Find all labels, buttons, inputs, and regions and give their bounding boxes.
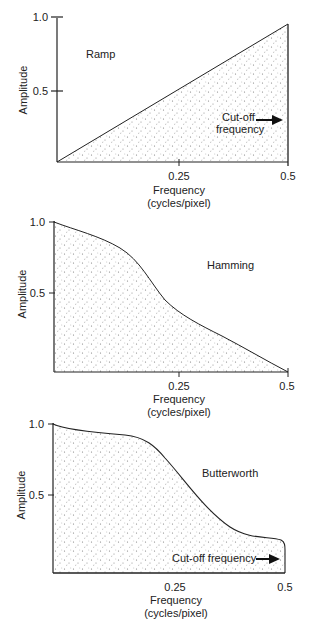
x-tick-label-0.5: 0.5 (280, 170, 295, 182)
y-axis-label: Amplitude (16, 270, 28, 319)
cutoff-annotation-line1: Cut-off (222, 111, 256, 123)
x-axis-label: Frequency (153, 393, 205, 405)
x-tick-label-0.25: 0.25 (168, 170, 189, 182)
ramp-chart: 1.0 0.5 0.25 0.5 Frequency (cycles/pixel… (17, 11, 296, 209)
chart-title-butterworth: Butterworth (202, 467, 258, 479)
hamming-chart: 1.0 0.5 0.25 0.5 Frequency (cycles/pixel… (16, 216, 295, 418)
cutoff-annotation: Cut-off frequency (172, 552, 257, 564)
cutoff-annotation-line2: frequency (216, 123, 265, 135)
x-tick-label-0.25: 0.25 (168, 380, 189, 392)
y-axis-label: Amplitude (17, 66, 29, 115)
x-axis-units: (cycles/pixel) (147, 197, 211, 209)
y-tick-label-1.0: 1.0 (33, 11, 48, 23)
y-tick-label-0.5: 0.5 (29, 489, 44, 501)
y-tick-label-0.5: 0.5 (30, 287, 45, 299)
x-axis-units: (cycles/pixel) (144, 607, 208, 619)
y-axis-label: Amplitude (15, 471, 27, 520)
x-tick-label-0.25: 0.25 (164, 581, 185, 593)
filter-response-figure: 1.0 0.5 0.25 0.5 Frequency (cycles/pixel… (0, 0, 310, 620)
y-tick-label-1.0: 1.0 (29, 418, 44, 430)
y-tick-label-1.0: 1.0 (30, 216, 45, 228)
x-axis-units: (cycles/pixel) (147, 406, 211, 418)
chart-title-hamming: Hamming (207, 259, 254, 271)
x-tick-label-0.5: 0.5 (279, 380, 294, 392)
x-tick-label-0.5: 0.5 (277, 581, 292, 593)
butterworth-chart: 1.0 0.5 0.25 0.5 Frequency (cycles/pixel… (15, 418, 293, 619)
y-tick-label-0.5: 0.5 (33, 85, 48, 97)
hamming-area (54, 222, 288, 372)
chart-title-ramp: Ramp (86, 48, 115, 60)
x-axis-label: Frequency (150, 594, 202, 606)
x-axis-label: Frequency (153, 184, 205, 196)
butterworth-area (53, 424, 285, 573)
